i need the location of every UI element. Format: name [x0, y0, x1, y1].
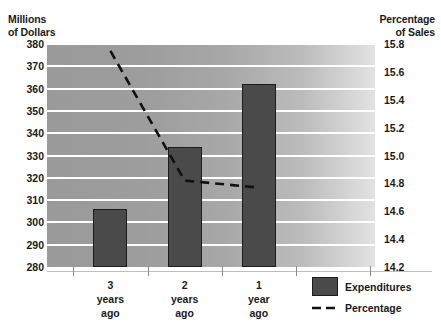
plot-area [47, 44, 375, 267]
dual-axis-chart: Millions of Dollars Percentage of Sales … [0, 0, 441, 325]
left-tick-label: 380 [2, 38, 44, 50]
left-tick-label: 340 [2, 127, 44, 139]
left-tick-label: 320 [2, 172, 44, 184]
x-tick-mark [370, 266, 371, 276]
right-tick-label: 15.8 [384, 38, 424, 50]
left-tick-label: 330 [2, 150, 44, 162]
right-axis-title: Percentage of Sales [379, 13, 435, 38]
x-tick-mark [296, 266, 297, 276]
x-tick-label: 1 year ago [219, 278, 299, 320]
right-axis-tick-labels: 14.214.414.614.815.015.215.415.615.8 [384, 44, 428, 267]
left-tick-label: 360 [2, 83, 44, 95]
right-tick-label: 14.8 [384, 177, 424, 189]
left-axis-title: Millions of Dollars [8, 13, 55, 38]
chart-legend: Expenditures Percentage [312, 276, 440, 318]
left-tick-label: 310 [2, 194, 44, 206]
x-tick-mark [222, 266, 223, 276]
legend-label-percentage: Percentage [345, 302, 402, 314]
left-tick-label: 280 [2, 261, 44, 273]
right-tick-label: 15.0 [384, 150, 424, 162]
left-tick-label: 370 [2, 60, 44, 72]
right-tick-label: 15.4 [384, 94, 424, 106]
right-tick-label: 14.6 [384, 205, 424, 217]
x-tick-label: 3 years ago [70, 278, 150, 320]
left-tick-label: 350 [2, 105, 44, 117]
right-tick-label: 15.6 [384, 66, 424, 78]
left-axis-tick-labels: 280290300310320330340350360370380 [0, 44, 44, 267]
x-tick-mark [73, 266, 74, 276]
legend-item-percentage: Percentage [312, 297, 440, 318]
legend-item-expenditures: Expenditures [312, 276, 440, 297]
left-tick-label: 290 [2, 239, 44, 251]
x-axis-line [47, 271, 432, 272]
right-tick-label: 14.4 [384, 233, 424, 245]
left-tick-label: 300 [2, 216, 44, 228]
right-tick-label: 15.2 [384, 122, 424, 134]
x-tick-mark [148, 266, 149, 276]
dashed-line-icon [312, 298, 338, 317]
filled-square-icon [312, 277, 338, 296]
line-series-percentage [47, 44, 375, 267]
legend-label-expenditures: Expenditures [345, 281, 412, 293]
x-tick-label: 2 years ago [145, 278, 225, 320]
